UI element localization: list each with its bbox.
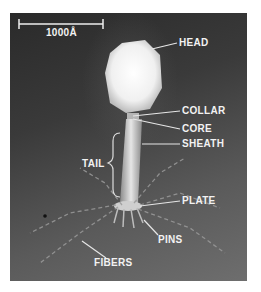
label-tail: TAIL: [82, 159, 105, 169]
micrograph-photo: 1000Å HEAD COLLAR CORE SHEATH TAIL PLATE…: [10, 13, 247, 281]
phage-tail-sheath: [120, 119, 142, 203]
tail-brace: [108, 133, 120, 197]
label-collar: COLLAR: [182, 106, 225, 116]
phage-pins: [114, 208, 143, 228]
label-fibers: FIBERS: [94, 258, 132, 268]
label-sheath: SHEATH: [182, 139, 224, 149]
label-plate: PLATE: [182, 196, 216, 206]
phage-head: [105, 40, 162, 113]
label-head: HEAD: [179, 38, 209, 48]
label-core: CORE: [182, 124, 212, 134]
scale-bar-label: 1000Å: [46, 28, 77, 38]
label-pins: PINS: [158, 235, 183, 245]
